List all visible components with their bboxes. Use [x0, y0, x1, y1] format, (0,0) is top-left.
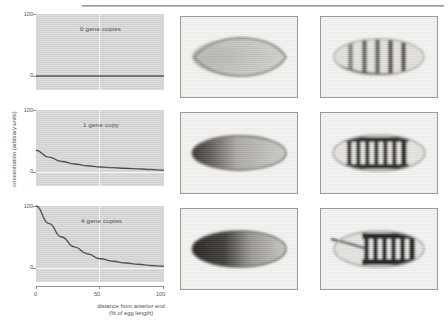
- xtick-mark-50: [99, 286, 100, 289]
- ytick-top-2: 100: [18, 203, 33, 209]
- chart-1-gene-copy: 1 gene copy 100 0: [36, 110, 164, 186]
- embryo-stripes-weak: [321, 17, 437, 97]
- xtick-mark-0: [36, 286, 37, 289]
- embryo-gradient-none: [181, 17, 297, 97]
- ytick-zero-1: 0: [18, 168, 33, 174]
- chart-0-gene-copies: 0 gene copies 100 0: [36, 14, 164, 90]
- x-axis-title-line1: distance from anterior end: [97, 303, 164, 309]
- ytick-zero-0: 0: [18, 72, 33, 78]
- panel-label-1: 1 gene copy: [83, 121, 119, 128]
- panel-label-2: 4 gene copies: [81, 217, 122, 224]
- embryo-photo-middle-row-0: [180, 16, 298, 98]
- embryo-gradient-anterior: [181, 113, 297, 193]
- ytick-mark-top-1: [33, 110, 36, 111]
- embryo-photo-middle-row-2: [180, 208, 298, 290]
- embryo-photo-middle-row-1: [180, 112, 298, 194]
- embryo-drawing: [321, 17, 437, 97]
- ytick-zero-2: 0: [18, 264, 33, 270]
- ytick-mark-zero-0: [33, 76, 36, 77]
- embryo-photo-right-row-2: [320, 208, 438, 290]
- embryo-drawing: [321, 113, 437, 193]
- top-divider-rule: [82, 5, 444, 7]
- ytick-top-1: 100: [18, 107, 33, 113]
- xtick-label-50: 50: [94, 291, 100, 297]
- embryo-photo-right-row-0: [320, 16, 438, 98]
- embryo-drawing: [321, 209, 437, 289]
- ytick-top-0: 100: [18, 11, 33, 17]
- chart-4-gene-copies: 4 gene copies 100 0 0 50 100: [36, 206, 164, 282]
- x-axis-title-line2: (% of egg length): [109, 310, 153, 316]
- embryo-drawing: [181, 209, 297, 289]
- ytick-mark-zero-2: [33, 268, 36, 269]
- embryo-stripes-shifted: [321, 209, 437, 289]
- embryo-drawing: [181, 17, 297, 97]
- embryo-drawing: [181, 113, 297, 193]
- ytick-mark-top-0: [33, 14, 36, 15]
- embryo-stripes-seven: [321, 113, 437, 193]
- xtick-mark-100: [163, 286, 164, 289]
- y-axis-title: concentration (arbitrary units): [11, 89, 17, 209]
- x-axis-title: distance from anterior end (% of egg len…: [46, 303, 216, 318]
- embryo-photo-right-row-1: [320, 112, 438, 194]
- figure-row-1: 1 gene copy 100 0: [0, 110, 448, 196]
- x-axis-line: [36, 286, 164, 287]
- ytick-mark-top-2: [33, 206, 36, 207]
- figure-row-0: 0 gene copies 100 0: [0, 14, 448, 100]
- embryo-gradient-extended: [181, 209, 297, 289]
- xtick-label-0: 0: [34, 291, 37, 297]
- figure-row-2: 4 gene copies 100 0 0 50 100: [0, 206, 448, 292]
- figure-root: 0 gene copies 100 0: [0, 0, 448, 323]
- ytick-mark-zero-1: [33, 172, 36, 173]
- panel-label-0: 0 gene copies: [80, 25, 121, 32]
- xtick-label-100: 100: [156, 291, 165, 297]
